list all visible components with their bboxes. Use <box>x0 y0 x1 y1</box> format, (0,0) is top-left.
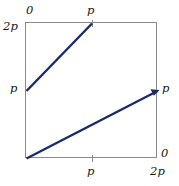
upper-line-segment <box>27 24 93 92</box>
x-axis-label-bottom-p: p <box>87 166 95 178</box>
y-axis-label-right-p: p <box>162 83 170 95</box>
x-axis-label-top-zero: 0 <box>26 5 34 17</box>
y-axis-label-bottom-zero: 0 <box>161 148 169 160</box>
y-axis-label-left-p: p <box>10 83 18 95</box>
plot-area <box>25 22 157 158</box>
plot-lines-svg <box>26 23 158 159</box>
y-axis-label-top-2p: 2p <box>3 21 18 33</box>
x-axis-label-top-p: p <box>87 5 95 17</box>
x-axis-label-bottom-2p: 2p <box>150 166 165 178</box>
lower-line-segment <box>27 91 158 159</box>
line-series-group <box>27 24 160 159</box>
figure-container: 2p 0 p p p 0 p 2p <box>0 0 179 186</box>
